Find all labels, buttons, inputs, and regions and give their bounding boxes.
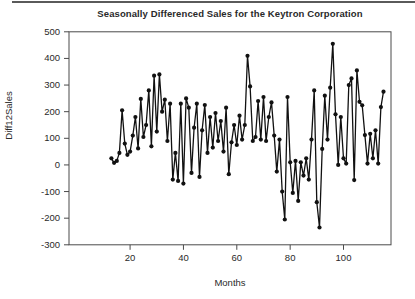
data-point <box>251 139 255 143</box>
data-point <box>187 106 191 110</box>
data-point <box>272 134 276 138</box>
data-point <box>216 139 220 143</box>
x-tick-label: 60 <box>232 252 243 263</box>
data-point <box>301 174 305 178</box>
data-point <box>195 102 199 106</box>
data-point <box>179 102 183 106</box>
data-point <box>160 110 164 114</box>
data-point <box>163 98 167 102</box>
data-point <box>147 88 151 92</box>
data-point <box>171 178 175 182</box>
axis-ticks: 5004003002001000-100-200-30020406080100 <box>41 26 351 263</box>
data-point <box>360 103 364 107</box>
sales-line-chart: 5004003002001000-100-200-30020406080100 <box>0 0 415 299</box>
data-point <box>352 178 356 182</box>
data-point <box>288 160 292 164</box>
y-tick-label: 500 <box>44 26 60 37</box>
data-point <box>240 138 244 142</box>
data-point <box>192 126 196 130</box>
data-point <box>117 151 121 155</box>
data-point <box>283 217 287 221</box>
data-point <box>176 179 180 183</box>
data-point <box>264 139 268 143</box>
data-point <box>331 42 335 46</box>
x-tick-label: 40 <box>178 252 189 263</box>
x-tick-label: 100 <box>336 252 352 263</box>
y-tick-label: 0 <box>55 159 60 170</box>
data-point <box>256 99 260 103</box>
data-point <box>139 97 143 101</box>
data-point <box>224 106 228 110</box>
data-point <box>189 171 193 175</box>
data-point <box>349 76 353 80</box>
data-point <box>336 163 340 167</box>
data-point <box>152 74 156 78</box>
data-point <box>371 156 375 160</box>
data-point <box>144 123 148 127</box>
data-point <box>245 54 249 58</box>
data-point <box>211 146 215 150</box>
data-point <box>365 162 369 166</box>
data-point <box>381 90 385 94</box>
data-point <box>248 84 252 88</box>
series-line <box>111 44 383 228</box>
data-point <box>347 83 351 87</box>
y-tick-label: -200 <box>41 212 60 223</box>
data-point <box>373 128 377 132</box>
data-point <box>325 138 329 142</box>
x-tick-label: 80 <box>285 252 296 263</box>
data-point <box>357 100 361 104</box>
data-point <box>341 156 345 160</box>
data-point <box>328 86 332 90</box>
data-point <box>339 115 343 119</box>
data-point <box>267 115 271 119</box>
data-point <box>275 170 279 174</box>
data-point <box>136 146 140 150</box>
x-tick-label: 20 <box>125 252 136 263</box>
data-point <box>168 102 172 106</box>
data-point <box>259 138 263 142</box>
data-point <box>141 135 145 139</box>
y-tick-label: 300 <box>44 79 60 90</box>
data-point <box>200 128 204 132</box>
data-point <box>261 95 265 99</box>
data-point <box>235 143 239 147</box>
y-tick-label: 200 <box>44 106 60 117</box>
y-tick-label: -100 <box>41 186 60 197</box>
data-point <box>184 96 188 100</box>
data-point <box>133 115 137 119</box>
data-point <box>157 72 161 76</box>
data-point <box>203 103 207 107</box>
data-point <box>379 105 383 109</box>
data-point <box>333 112 337 116</box>
data-point <box>227 172 231 176</box>
data-point <box>229 140 233 144</box>
diff12sales-series <box>109 42 385 230</box>
data-point <box>363 133 367 137</box>
data-point <box>376 162 380 166</box>
data-point <box>323 94 327 98</box>
data-point <box>320 147 324 151</box>
data-point <box>344 162 348 166</box>
data-point <box>205 151 209 155</box>
data-point <box>123 142 127 146</box>
data-point <box>296 199 300 203</box>
data-point <box>120 108 124 112</box>
data-point <box>208 115 212 119</box>
data-point <box>109 156 113 160</box>
data-point <box>269 100 273 104</box>
data-point <box>253 135 257 139</box>
data-point <box>149 144 153 148</box>
y-tick-label: 400 <box>44 52 60 63</box>
data-point <box>285 95 289 99</box>
data-point <box>115 159 119 163</box>
data-point <box>213 111 217 115</box>
data-point <box>131 134 135 138</box>
data-point <box>307 178 311 182</box>
y-tick-label: -300 <box>41 239 60 250</box>
y-tick-label: 100 <box>44 132 60 143</box>
data-point <box>304 156 308 160</box>
data-point <box>368 132 372 136</box>
data-point <box>197 175 201 179</box>
data-point <box>291 191 295 195</box>
